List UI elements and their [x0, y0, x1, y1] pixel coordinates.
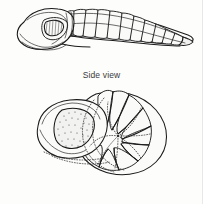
enrolled-specimen-illustration: [0, 86, 203, 182]
panel-enrolled-specimen: Enrolled Specimen: [0, 86, 203, 204]
trilobite-figure: Side view: [0, 0, 203, 204]
side-view-illustration: [0, 0, 203, 68]
caption-side-view: Side view: [0, 70, 203, 80]
thorax-segments-side: [57, 9, 193, 46]
genal-angle: [62, 44, 90, 47]
panel-side-view: Side view: [0, 0, 203, 86]
coil-focus-point: [117, 135, 119, 137]
